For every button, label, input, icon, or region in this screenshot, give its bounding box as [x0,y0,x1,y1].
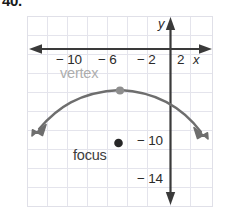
y-tick-label-minus-10: − 10 [137,133,163,148]
y-axis-name: y [158,16,165,31]
focus-label: focus [73,147,107,163]
curve-arrow-left [32,125,46,137]
parabola-curve [32,90,208,139]
curve-arrow-right [194,128,208,140]
y-axis [166,17,175,205]
x-tick-label-minus-6: − 6 [98,52,117,67]
vertex-point [116,86,124,94]
coordinate-plane: − 10 − 6 − 2 2 x y − 10 − 14 vertex focu… [27,16,213,207]
graph-drawing [27,16,213,207]
vertex-label: vertex [60,65,98,81]
x-tick-label-minus-2: − 2 [137,52,156,67]
y-tick-label-minus-14: − 14 [137,171,163,186]
problem-number: 40. [2,0,22,8]
x-tick-label-2: 2 [177,52,184,67]
parabola-figure: 40. [0,0,227,220]
x-axis-name: x [193,52,200,67]
focus-point [114,139,123,148]
